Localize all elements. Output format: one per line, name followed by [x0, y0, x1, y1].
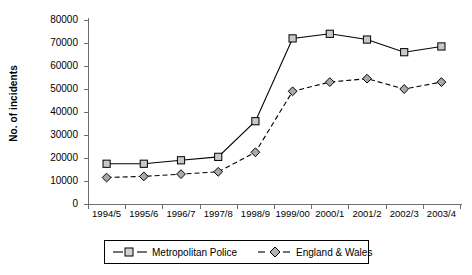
data-point-marker-square [438, 43, 445, 50]
y-axis-tick-label: 0 [32, 199, 78, 209]
y-axis-tick-mark [84, 181, 88, 182]
data-point-marker-square [140, 160, 147, 167]
data-point-marker-square [103, 160, 110, 167]
y-axis-tick-labels: 8000070000600005000040000300002000010000… [26, 0, 78, 210]
chart-container: No. of incidents 80000700006000050000400… [0, 0, 472, 275]
y-axis-tick-label: 80000 [32, 15, 78, 25]
data-point-marker-diamond [251, 148, 260, 157]
data-point-marker-square [215, 153, 222, 160]
data-point-marker-square [363, 36, 370, 43]
chart-legend: Metropolitan Police England & Wales [104, 240, 369, 264]
x-axis-tick-label: 2003/4 [418, 208, 464, 220]
data-point-marker-square [326, 30, 333, 37]
data-point-marker-diamond [400, 85, 409, 94]
legend-item-england-wales: England & Wales [257, 241, 372, 263]
data-point-marker-square [289, 35, 296, 42]
y-axis-tick-mark [84, 158, 88, 159]
series-line-metropolitan-police [107, 34, 442, 164]
legend-swatch-filled-diamond-icon [257, 245, 291, 259]
data-point-marker-diamond [139, 172, 148, 181]
y-axis-tick-mark [84, 89, 88, 90]
y-axis-tick-label: 50000 [32, 84, 78, 94]
legend-swatch-open-square-icon [113, 245, 147, 259]
series-layer [88, 20, 460, 204]
y-axis-title: No. of incidents [0, 0, 26, 206]
y-axis-tick-mark [84, 66, 88, 67]
data-point-marker-diamond [363, 74, 372, 83]
data-point-marker-square [177, 157, 184, 164]
y-axis-tick-label: 70000 [32, 38, 78, 48]
x-axis-line [88, 204, 462, 205]
data-point-marker-diamond [437, 78, 446, 87]
y-axis-tick-mark [84, 112, 88, 113]
y-axis-tick-mark [84, 20, 88, 21]
legend-item-metropolitan-police: Metropolitan Police [113, 241, 237, 263]
plot-area [88, 20, 460, 204]
x-axis-tick-labels: 1994/51995/61996/71997/81998/91999/00200… [88, 208, 462, 228]
data-point-marker-square [401, 49, 408, 56]
y-axis-tick-mark [84, 43, 88, 44]
y-axis-tick-label: 10000 [32, 176, 78, 186]
y-axis-tick-label: 20000 [32, 153, 78, 163]
data-point-marker-diamond [325, 78, 334, 87]
data-point-marker-diamond [177, 170, 186, 179]
y-axis-tick-mark [84, 135, 88, 136]
y-axis-title-text: No. of incidents [8, 65, 19, 142]
legend-label-metropolitan-police: Metropolitan Police [152, 247, 237, 258]
y-axis-tick-label: 30000 [32, 130, 78, 140]
data-point-marker-diamond [214, 167, 223, 176]
y-axis-tick-label: 40000 [32, 107, 78, 117]
y-axis-tick-label: 60000 [32, 61, 78, 71]
data-point-marker-square [252, 118, 259, 125]
data-point-marker-diamond [102, 173, 111, 182]
legend-label-england-wales: England & Wales [296, 247, 372, 258]
data-point-marker-diamond [288, 87, 297, 96]
